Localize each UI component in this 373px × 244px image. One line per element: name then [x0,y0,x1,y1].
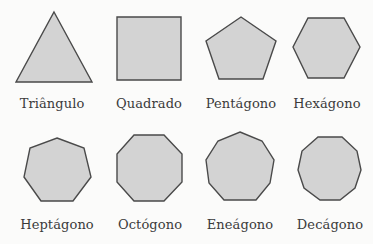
octagon-shape [117,135,182,201]
square-label: Quadrado [104,96,194,111]
hexagon-label: Hexágono [282,96,372,111]
square-shape [117,17,181,80]
polygons-diagram [0,0,373,244]
pentagon-shape [206,17,276,79]
decagon-label: Decágono [285,217,373,232]
triangle-label: Triângulo [7,96,97,111]
triangle-shape [16,12,92,82]
pentagon-label: Pentágono [196,96,286,111]
heptagon-shape [24,138,91,201]
nonagon-shape [206,132,274,200]
octagon-label: Octógono [105,217,195,232]
decagon-shape [298,137,361,200]
nonagon-label: Eneágono [195,217,285,232]
hexagon-shape [293,18,360,78]
heptagon-label: Heptágono [12,217,102,232]
